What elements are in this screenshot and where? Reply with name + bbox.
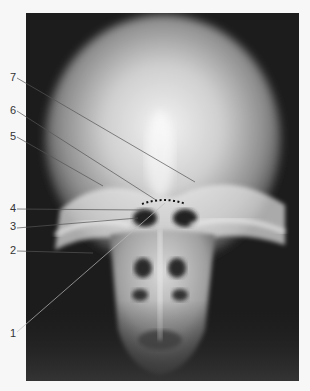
label-3: 3 bbox=[10, 220, 16, 232]
label-4: 4 bbox=[10, 202, 16, 214]
leader-line-3 bbox=[17, 218, 138, 228]
leader-line-2 bbox=[17, 251, 93, 253]
leader-line-7 bbox=[17, 78, 195, 182]
label-6: 6 bbox=[10, 104, 16, 116]
label-2: 2 bbox=[10, 244, 16, 256]
leader-line-1 bbox=[17, 203, 165, 332]
label-1: 1 bbox=[10, 327, 16, 339]
leader-line-6 bbox=[17, 111, 156, 200]
label-7: 7 bbox=[10, 71, 16, 83]
dotted-marker bbox=[142, 200, 186, 204]
annotation-layer bbox=[0, 0, 310, 391]
leader-line-5 bbox=[17, 137, 103, 186]
leader-line-4 bbox=[17, 209, 144, 210]
label-5: 5 bbox=[10, 130, 16, 142]
